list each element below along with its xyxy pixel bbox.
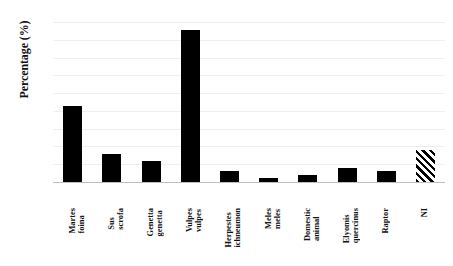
x-axis-line (53, 182, 445, 183)
bar (259, 178, 278, 182)
bar (416, 150, 435, 182)
x-tick-label: Domestic animal (303, 208, 321, 241)
x-tick-label: Meles meles (264, 208, 282, 229)
bar (63, 106, 82, 182)
bar (298, 175, 317, 182)
x-tick-label: Raptor (381, 208, 390, 234)
bar (377, 171, 396, 182)
x-tick-label: Elyomis quercinus (342, 208, 360, 243)
x-tick-label: Sus scrofa (107, 208, 125, 230)
plot-area: 051015202530354045 Martes foinaSus scrof… (53, 22, 445, 182)
gridline (53, 146, 445, 147)
gridline (53, 129, 445, 130)
gridline (53, 22, 445, 23)
gridline (53, 58, 445, 59)
gridline (53, 111, 445, 112)
gridline (53, 40, 445, 41)
x-tick-label: NI (420, 208, 429, 217)
bar (142, 161, 161, 182)
bar (338, 168, 357, 182)
bar (220, 171, 239, 182)
gridline (53, 93, 445, 94)
x-tick-label: Herpestes ichneumon (224, 208, 242, 248)
x-tick-label: Martes foina (68, 208, 86, 234)
gridline (53, 75, 445, 76)
x-tick-label: Genetta genetta (146, 208, 164, 236)
bar (102, 154, 121, 182)
y-axis-title: Percentage (%) (17, 0, 32, 130)
bar-chart: Percentage (%) 051015202530354045 Martes… (0, 0, 453, 266)
bar (181, 30, 200, 182)
x-tick-label: Vulpes vulpes (185, 208, 203, 232)
